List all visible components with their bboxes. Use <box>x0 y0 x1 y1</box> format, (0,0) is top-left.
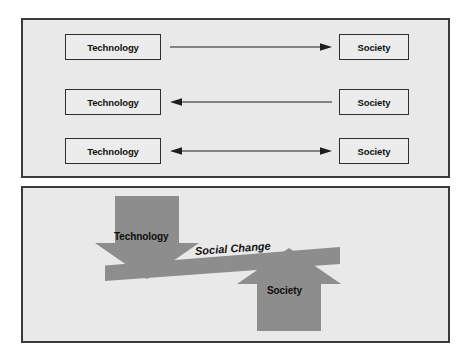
diagram-canvas: Technology Society Technology Society Te… <box>0 0 471 361</box>
technology-arrow-label: Technology <box>114 231 168 242</box>
lever-graphic <box>23 188 452 345</box>
society-box-row1: Society <box>339 34 409 60</box>
arrow-left-icon <box>169 94 333 110</box>
society-box-row1-label: Society <box>357 42 390 53</box>
technology-box-row1-label: Technology <box>87 42 139 53</box>
society-box-row2: Society <box>339 89 409 115</box>
technology-box-row3-label: Technology <box>87 146 139 157</box>
technology-box-row2-label: Technology <box>87 97 139 108</box>
society-box-row3: Society <box>339 138 409 164</box>
technology-box-row2: Technology <box>65 89 161 115</box>
bottom-panel: Technology Social Change Society <box>21 186 450 343</box>
technology-box-row3: Technology <box>65 138 161 164</box>
arrow-right-icon <box>169 39 333 55</box>
society-arrow-label: Society <box>267 285 302 296</box>
society-box-row3-label: Society <box>357 146 390 157</box>
arrow-bidirectional-icon <box>169 143 333 159</box>
top-panel: Technology Society Technology Society Te… <box>21 18 450 178</box>
society-box-row2-label: Society <box>357 97 390 108</box>
technology-box-row1: Technology <box>65 34 161 60</box>
